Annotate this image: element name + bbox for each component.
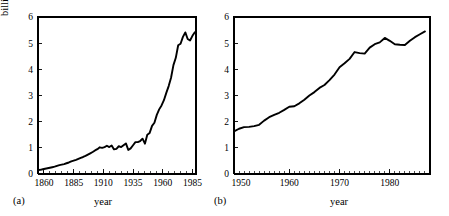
y-tick-label: 4 [28,65,33,75]
panel-a-plot-area: 0123456186018851910193519601985 [0,0,212,216]
y-tick-label: 1 [224,143,229,153]
y-tick-label: 2 [28,117,33,127]
y-tick-label: 5 [224,39,229,49]
y-tick-label: 6 [224,12,229,22]
y-tick-label: 1 [28,143,33,153]
x-tick-label: 1980 [380,178,399,188]
chart-panel-a: 0123456186018851910193519601985 billions… [0,0,212,216]
panel-a-x-axis-label: year [94,196,112,207]
plot-frame [38,17,196,174]
panel-a-y-axis-label: billions t/yr as carbon [0,0,10,16]
y-tick-label: 0 [28,169,33,179]
x-tick-label: 1985 [183,178,202,188]
y-tick-label: 4 [224,65,229,75]
x-tick-label: 1910 [94,178,113,188]
figure-root: 0123456186018851910193519601985 billions… [0,0,449,216]
x-tick-label: 1935 [124,178,143,188]
x-tick-start-label: 1950 [232,178,251,188]
x-tick-label: 1960 [280,178,299,188]
panel-a-tag: (a) [13,195,25,206]
x-tick-label: 1970 [330,178,349,188]
panel-b-plot-area: 01234561960197019801950 [212,0,449,216]
x-tick-label: 1960 [153,178,172,188]
y-tick-label: 2 [224,117,229,127]
chart-panel-b: 01234561960197019801950 year (b) [212,0,449,216]
x-tick-label: 1860 [34,178,53,188]
y-tick-label: 6 [28,12,33,22]
x-tick-label: 1885 [64,178,83,188]
data-series-line [234,31,425,131]
y-tick-label: 0 [224,169,229,179]
plot-frame [234,17,430,174]
data-series-line [38,32,195,170]
panel-b-tag: (b) [214,195,226,206]
y-tick-label: 3 [224,91,229,101]
panel-b-x-axis-label: year [330,196,348,207]
y-tick-label: 5 [28,39,33,49]
y-tick-label: 3 [28,91,33,101]
